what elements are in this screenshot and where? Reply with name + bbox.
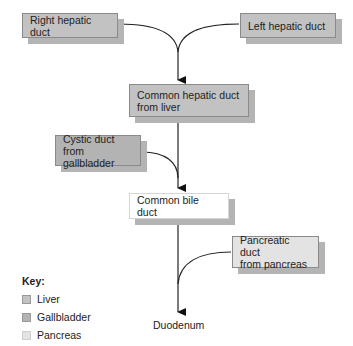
pancreas-swatch [22, 331, 31, 340]
key-label: Liver [37, 293, 60, 305]
node-label-line2: from pancreas [240, 258, 307, 270]
node-cystic-duct: Cystic duct from gallbladder [55, 135, 141, 166]
node-label-line2: from gallbladder [63, 145, 133, 169]
key-item-pancreas: Pancreas [22, 329, 81, 341]
key-label: Gallbladder [37, 311, 91, 323]
node-duodenum: Duodenum [153, 319, 204, 331]
node-common-hepatic-duct: Common hepatic duct from liver [129, 84, 249, 117]
key-title: Key: [22, 275, 45, 287]
node-label-line2: from liver [137, 101, 180, 113]
key-item-gallbladder: Gallbladder [22, 311, 91, 323]
gallbladder-swatch [22, 313, 31, 322]
key-label: Pancreas [37, 329, 81, 341]
node-common-bile-duct: Common bile duct [129, 193, 229, 219]
node-label: Right hepatic duct [30, 14, 110, 38]
node-right-hepatic-duct: Right hepatic duct [22, 13, 118, 38]
node-label-line1: Cystic duct [63, 133, 114, 145]
node-left-hepatic-duct: Left hepatic duct [240, 13, 336, 38]
node-pancreatic-duct: Pancreatic duct from pancreas [232, 236, 319, 268]
node-label-line1: Pancreatic duct [240, 234, 311, 258]
liver-swatch [22, 295, 31, 304]
node-label: Common bile duct [137, 194, 221, 218]
node-label: Left hepatic duct [248, 20, 325, 32]
key-item-liver: Liver [22, 293, 60, 305]
node-label-line1: Common hepatic duct [137, 89, 239, 101]
